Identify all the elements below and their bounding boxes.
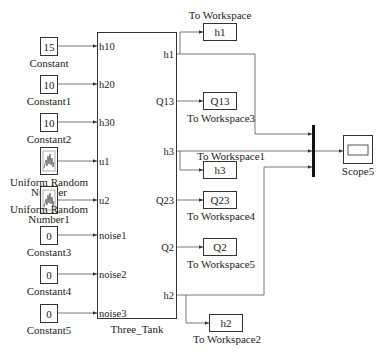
constant1-label: Constant1 <box>18 95 80 107</box>
constant3-label: Constant3 <box>18 246 80 258</box>
to-workspace3-label: To Workspace3 <box>176 112 266 124</box>
to-workspace5-q2-block[interactable]: Q2 <box>203 238 237 256</box>
scope-screen-icon <box>346 143 370 157</box>
constant5-label: Constant5 <box>18 324 80 336</box>
constant-value: 15 <box>44 41 55 53</box>
input-port-h10: h10 <box>99 41 115 52</box>
output-port-q13: Q13 <box>156 96 174 107</box>
to-workspace-h1-block[interactable]: h1 <box>203 23 237 41</box>
uniform-random-number1-label-line2: Number1 <box>4 213 94 225</box>
to-workspace4-label: To Workspace4 <box>176 210 266 222</box>
constant2-label: Constant2 <box>18 133 80 145</box>
three-tank-label: Three_Tank <box>97 323 177 335</box>
constant4-label: Constant4 <box>18 285 80 297</box>
to-workspace-label: To Workspace <box>180 9 260 21</box>
constant-value: 10 <box>44 117 55 129</box>
workspace-var: h2 <box>221 317 232 329</box>
mux-block[interactable] <box>312 125 315 177</box>
input-port-u2: u2 <box>99 195 110 206</box>
scope5-label: Scope5 <box>335 165 381 177</box>
workspace-var: Q23 <box>211 194 230 206</box>
scope5-block[interactable] <box>343 135 373 164</box>
input-port-noise3: noise3 <box>99 308 126 319</box>
to-workspace4-q23-block[interactable]: Q23 <box>203 191 237 209</box>
constant-label: Constant <box>20 57 78 69</box>
output-port-q23: Q23 <box>156 195 174 206</box>
output-port-h1: h1 <box>164 49 175 60</box>
constant-value: 0 <box>46 230 52 242</box>
constant-value: 10 <box>44 79 55 91</box>
workspace-var: h3 <box>215 164 226 176</box>
input-port-h20: h20 <box>99 79 115 90</box>
to-workspace3-q13-block[interactable]: Q13 <box>203 92 237 110</box>
input-port-h30: h30 <box>99 117 115 128</box>
output-port-q2: Q2 <box>161 242 174 253</box>
input-port-noise1: noise1 <box>99 230 126 241</box>
output-port-h2: h2 <box>164 290 175 301</box>
output-port-h3: h3 <box>164 146 175 157</box>
uniform-random-number-block[interactable] <box>40 147 58 175</box>
to-workspace2-label: To Workspace2 <box>182 333 272 345</box>
to-workspace1-h3-block[interactable]: h3 <box>203 161 237 179</box>
constant3-block[interactable]: 0 <box>40 226 58 245</box>
input-port-noise2: noise2 <box>99 269 126 280</box>
constant5-block[interactable]: 0 <box>40 304 58 323</box>
constant2-block[interactable]: 10 <box>40 113 58 132</box>
to-workspace5-label: To Workspace5 <box>176 258 266 270</box>
input-port-u1: u1 <box>99 156 110 167</box>
simulink-canvas: 15 Constant 10 Constant1 10 Constant2 Un… <box>0 0 385 357</box>
constant1-block[interactable]: 10 <box>40 75 58 94</box>
random-signal-icon <box>42 150 56 172</box>
constant-block[interactable]: 15 <box>40 37 58 56</box>
workspace-var: Q13 <box>211 95 230 107</box>
constant-value: 0 <box>46 269 52 281</box>
workspace-var: Q2 <box>213 241 226 253</box>
to-workspace2-h2-block[interactable]: h2 <box>209 314 243 332</box>
constant-value: 0 <box>46 308 52 320</box>
workspace-var: h1 <box>215 26 226 38</box>
constant4-block[interactable]: 0 <box>40 265 58 284</box>
